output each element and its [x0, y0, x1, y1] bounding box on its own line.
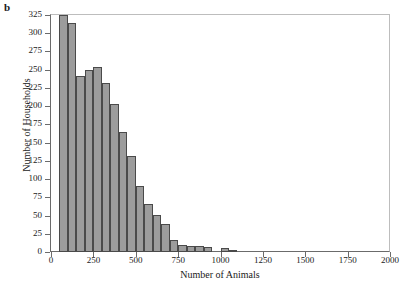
y-tick-mark [45, 15, 50, 16]
y-tick-mark [45, 33, 50, 34]
x-tick-mark [305, 252, 306, 257]
y-tick-label: 100 [0, 174, 42, 183]
histogram-bar [170, 240, 178, 252]
x-tick-mark [136, 252, 137, 257]
x-tick-mark [51, 252, 52, 257]
x-tick-mark [348, 252, 349, 257]
y-tick-mark [45, 216, 50, 217]
x-tick-label: 500 [116, 256, 156, 265]
y-tick-mark [45, 179, 50, 180]
y-tick-mark [45, 88, 50, 89]
histogram-bar [76, 76, 84, 252]
y-tick-label: 0 [0, 247, 42, 256]
histogram-bar [144, 204, 152, 252]
y-tick-label: 25 [0, 229, 42, 238]
y-tick-label: 275 [0, 46, 42, 55]
histogram-bar [119, 132, 127, 252]
histogram-bar [204, 247, 212, 252]
x-tick-label: 1250 [243, 256, 283, 265]
histogram-bar [221, 248, 229, 252]
y-tick-mark [45, 124, 50, 125]
y-tick-mark [45, 252, 50, 253]
histogram-bar [127, 156, 135, 252]
y-tick-mark [45, 234, 50, 235]
histogram-bar [110, 104, 118, 252]
bars-layer [51, 15, 390, 252]
histogram-bar [102, 83, 110, 252]
y-tick-mark [45, 197, 50, 198]
histogram-bar [229, 250, 237, 252]
y-tick-label: 250 [0, 65, 42, 74]
x-tick-label: 750 [158, 256, 198, 265]
histogram-bar [187, 246, 195, 252]
x-tick-mark [263, 252, 264, 257]
x-tick-label: 2000 [370, 256, 408, 265]
histogram-bar [85, 70, 93, 252]
histogram-bar [93, 67, 101, 252]
y-axis-title: Number of Households [22, 45, 32, 205]
y-tick-label: 50 [0, 211, 42, 220]
y-tick-mark [45, 161, 50, 162]
histogram-bar [59, 15, 67, 252]
x-tick-mark [221, 252, 222, 257]
histogram-chart: 0255075100125150175200225250275300325 02… [0, 0, 408, 288]
x-tick-label: 0 [31, 256, 71, 265]
x-axis-title: Number of Animals [50, 270, 390, 280]
histogram-bar [153, 215, 161, 252]
histogram-bar [161, 224, 169, 252]
x-tick-mark [178, 252, 179, 257]
y-tick-mark [45, 143, 50, 144]
histogram-bar [178, 245, 186, 252]
histogram-bar [136, 186, 144, 252]
y-tick-mark [45, 70, 50, 71]
x-tick-label: 1000 [201, 256, 241, 265]
y-tick-mark [45, 51, 50, 52]
histogram-bar [195, 246, 203, 252]
x-tick-mark [93, 252, 94, 257]
y-tick-mark [45, 106, 50, 107]
x-tick-mark [390, 252, 391, 257]
y-tick-label: 325 [0, 10, 42, 19]
histogram-bar [68, 23, 76, 252]
x-tick-label: 1750 [328, 256, 368, 265]
y-tick-label: 75 [0, 192, 42, 201]
x-tick-label: 250 [73, 256, 113, 265]
x-tick-label: 1500 [285, 256, 325, 265]
y-tick-label: 300 [0, 28, 42, 37]
